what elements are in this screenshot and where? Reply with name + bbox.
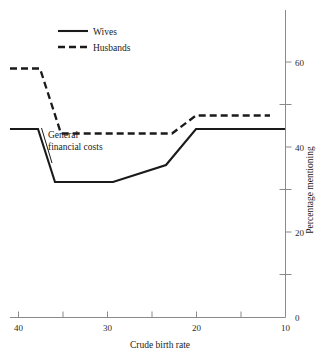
annotation-text-line1: General [48,130,78,140]
legend-label-wives: Wives [93,27,117,37]
x-tick-label-20: 20 [192,323,202,333]
annotation-text-line2: financial costs [48,142,103,152]
y-axis-title: Percentage mentioning [305,146,315,234]
chart-annotation: General financial costs [42,128,103,163]
y-tick-label-20: 20 [295,228,305,238]
y-tick-labels: 60 40 20 0 [295,58,305,323]
series-line-husbands [10,69,270,134]
axes-group [10,10,286,318]
chart-legend: Wives Husbands [58,27,131,53]
x-axis-title: Crude birth rate [130,340,190,350]
legend-label-husbands: Husbands [93,43,131,53]
x-tick-label-40: 40 [14,323,24,333]
line-chart: 40 30 20 10 60 40 20 0 Crude birth rate … [0,0,324,356]
chart-container: 40 30 20 10 60 40 20 0 Crude birth rate … [0,0,324,356]
x-tick-label-10: 10 [281,323,291,333]
x-tick-labels: 40 30 20 10 [14,323,291,333]
x-tick-label-30: 30 [103,323,113,333]
y-tick-label-40: 40 [295,143,305,153]
x-axis-ticks [19,312,242,318]
y-tick-label-60: 60 [295,58,305,68]
y-tick-label-0: 0 [295,313,300,323]
